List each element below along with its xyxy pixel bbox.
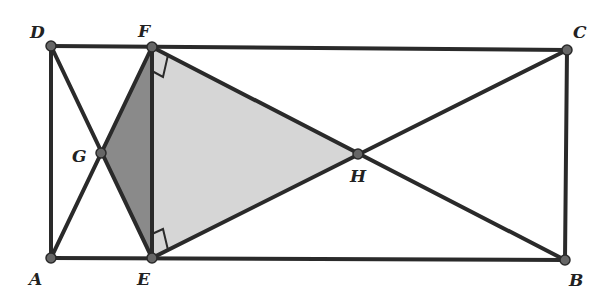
point-b (560, 255, 570, 265)
label-d: D (29, 22, 45, 42)
point-e (147, 253, 157, 263)
point-a (46, 253, 56, 263)
label-e: E (136, 269, 151, 289)
label-f: F (137, 21, 152, 41)
point-d (46, 41, 56, 51)
label-b: B (568, 270, 583, 290)
label-h: H (349, 166, 367, 186)
shaded-triangle-efg (101, 47, 152, 258)
point-g (96, 148, 106, 158)
geometry-diagram: D F C G H A E B (0, 0, 614, 297)
label-g: G (72, 146, 87, 166)
segment-dc (51, 46, 567, 50)
label-a: A (27, 269, 42, 289)
label-c: C (573, 22, 587, 42)
point-f (147, 42, 157, 52)
point-c (562, 45, 572, 55)
point-h (353, 149, 363, 159)
segment-bc (565, 50, 567, 260)
shaded-triangle-efh (152, 47, 358, 258)
segment-ab (51, 258, 565, 260)
